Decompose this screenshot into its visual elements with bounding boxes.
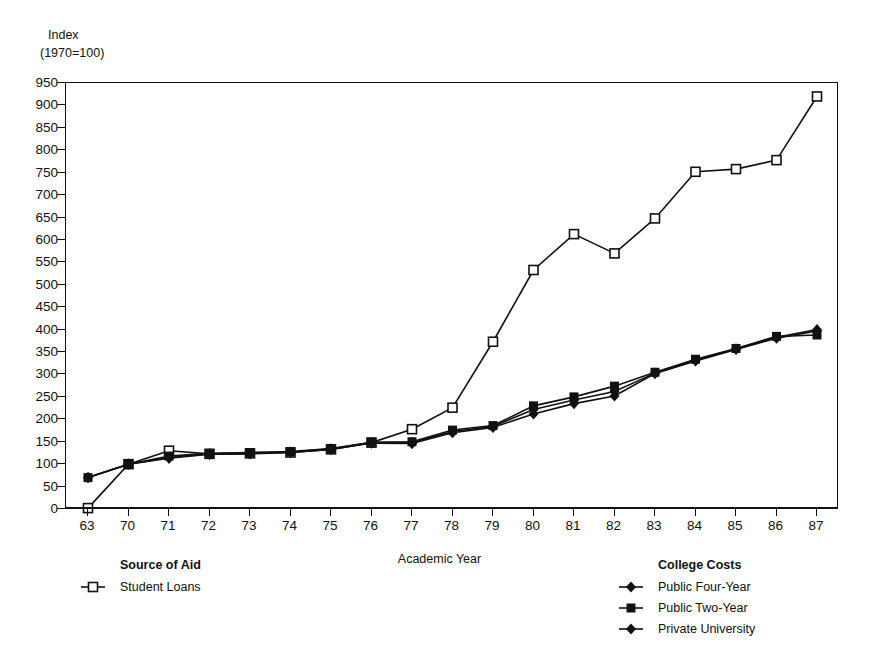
x-axis-tick [249,508,250,516]
x-axis-tick-label: 76 [363,518,378,533]
x-axis-tick-label: 84 [687,518,702,533]
legend-item-label: Public Two-Year [652,601,748,615]
x-axis-tick-label: 82 [606,518,621,533]
y-axis-title-line1: Index [48,28,79,42]
data-point-marker [626,623,636,634]
y-axis-ticks [0,82,70,508]
legend-item[interactable]: Public Four-Year [618,576,755,597]
x-axis-tick-label: 75 [322,518,337,533]
legend-marker-filled-diamond [618,580,652,594]
legend-swatch [618,601,652,615]
data-point-marker [813,92,822,101]
legend-item-label: Student Loans [114,580,201,594]
x-axis-tick [816,508,817,516]
x-axis-tick [614,508,615,516]
data-point-marker [529,265,538,274]
chart-figure: Index (1970=100) 05010015020025030035040… [0,0,879,671]
plot-area [65,82,838,508]
data-point-marker [610,249,619,258]
legend-item[interactable]: Private University [618,618,755,639]
x-axis-tick [290,508,291,516]
x-axis-tick-label: 87 [808,518,823,533]
x-axis-tick [533,508,534,516]
x-axis-tick [411,508,412,516]
data-point-marker [772,156,781,165]
x-axis-tick-label: 71 [160,518,175,533]
legend-item[interactable]: Public Two-Year [618,597,755,618]
legend-swatch [618,622,652,636]
x-axis-tick [87,508,88,516]
x-axis-title: Academic Year [398,552,481,566]
data-point-marker [448,403,457,412]
y-axis-title-line2: (1970=100) [40,46,104,60]
x-axis-tick-label: 72 [201,518,216,533]
x-axis-tick-label: 80 [525,518,540,533]
data-point-marker [489,337,498,346]
legend-college-costs: College CostsPublic Four-YearPublic Two-… [618,558,755,639]
data-point-marker [651,214,660,223]
data-point-marker [627,603,636,612]
series-student-loans [84,92,822,513]
x-axis-tick-label: 79 [484,518,499,533]
legend-item-label: Private University [652,622,755,636]
legend-item-label: Public Four-Year [652,580,751,594]
x-axis-tick [209,508,210,516]
x-axis-tick [776,508,777,516]
series-line [88,96,817,508]
legend-title: College Costs [618,558,755,572]
x-axis-tick-label: 74 [282,518,297,533]
x-axis-tick-label: 81 [565,518,580,533]
x-axis-tick [452,508,453,516]
data-point-marker [626,581,636,592]
series-lines [66,83,839,509]
x-axis-tick [654,508,655,516]
x-axis-tick-label: 77 [403,518,418,533]
x-axis-tick [573,508,574,516]
x-axis-tick [330,508,331,516]
legend-swatch [618,580,652,594]
legend-marker-filled-square [618,601,652,615]
x-axis-tick [168,508,169,516]
data-point-marker [691,167,700,176]
x-axis-tick-label: 70 [120,518,135,533]
data-point-marker [89,582,98,591]
x-axis-tick [695,508,696,516]
data-point-marker [732,165,741,174]
x-axis-tick-label: 63 [79,518,94,533]
legend-title: Source of Aid [80,558,201,572]
x-axis-tick [371,508,372,516]
x-axis-tick-label: 85 [727,518,742,533]
x-axis-tick-label: 78 [444,518,459,533]
x-axis-tick-label: 86 [768,518,783,533]
x-axis-tick [492,508,493,516]
legend-marker-filled-diamond [618,622,652,636]
legend-item[interactable]: Student Loans [80,576,201,597]
x-axis-tick [128,508,129,516]
legend-source-of-aid: Source of AidStudent Loans [80,558,201,597]
data-point-marker [570,230,579,239]
data-point-marker [408,425,417,434]
x-axis-tick-label: 83 [646,518,661,533]
legend-marker-open-square [80,580,114,594]
legend-swatch [80,580,114,594]
x-axis-tick [735,508,736,516]
x-axis-tick-label: 73 [241,518,256,533]
